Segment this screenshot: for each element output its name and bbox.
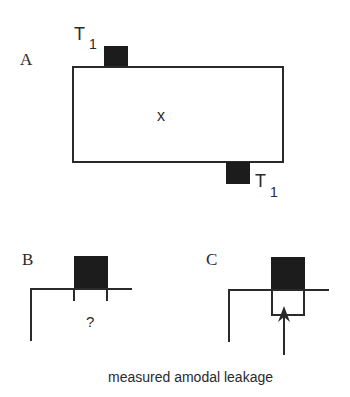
occluder-corner-edge [31, 289, 132, 341]
occluder-rectangle [73, 67, 283, 162]
figure-canvas: A T 1 x T 1 B ? C [0, 0, 350, 397]
panel-c-label: C [206, 250, 217, 269]
target-bottom-subscript: 1 [270, 184, 278, 200]
panel-a: A T 1 x T 1 [20, 24, 283, 200]
target-square [271, 257, 305, 290]
unknown-marker: ? [86, 313, 94, 330]
target-bottom-square [226, 162, 250, 184]
panel-b: B ? [22, 250, 132, 341]
target-top-square [104, 46, 128, 67]
panel-c: C measured amodal leakage [108, 250, 329, 385]
panel-b-label: B [22, 250, 33, 269]
target-bottom-label: T [255, 171, 266, 191]
panel-a-label: A [20, 50, 33, 69]
target-top-subscript: 1 [89, 36, 97, 52]
target-square [74, 256, 108, 289]
target-top-label: T [74, 24, 85, 44]
leakage-annotation: measured amodal leakage [108, 369, 273, 385]
leakage-box [272, 290, 304, 315]
center-symbol: x [157, 107, 165, 124]
